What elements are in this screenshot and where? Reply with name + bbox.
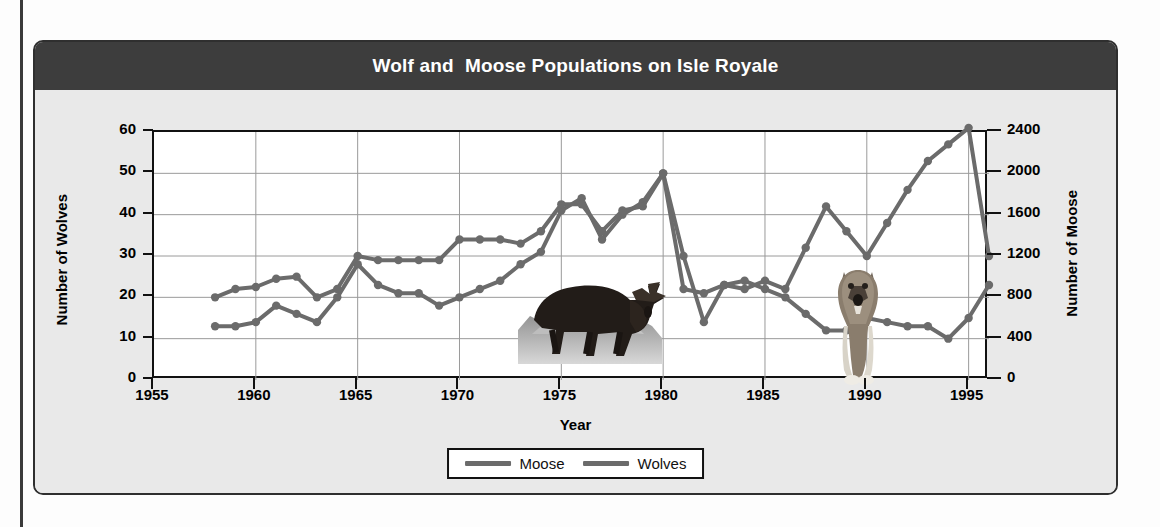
plot-wrapper: Number of Wolves Number of Moose [35,90,1116,495]
moose-photo [514,262,670,367]
x-axis-tick-mark [558,378,560,389]
y-axis-left-tick-mark [143,212,153,214]
y-axis-left-label: Number of Wolves [53,194,70,325]
y-axis-right-tick-mark [987,294,1001,296]
left-margin-rule [20,0,23,527]
x-axis-label: Year [35,416,1116,433]
x-axis-tick-mark [762,378,764,389]
chart-card: Wolf and Moose Populations on Isle Royal… [33,40,1118,495]
y-axis-right-tick-mark [987,253,1001,255]
y-axis-right-tick-800: 800 [1007,285,1065,302]
y-axis-right-tick-400: 400 [1007,327,1065,344]
y-axis-right-tick-mark [987,336,1001,338]
legend-label-wolves: Wolves [638,455,687,472]
y-axis-left-tick-mark [143,129,153,131]
x-axis-tick-mark [864,378,866,389]
legend-label-moose: Moose [520,455,565,472]
y-axis-left-tick-50: 50 [90,161,136,178]
x-axis-tick-mark [151,378,153,389]
y-axis-right-tick-mark [987,212,1001,214]
y-axis-right-tick-mark [987,170,1001,172]
x-axis-tick-mark [660,378,662,389]
y-axis-left-tick-40: 40 [90,203,136,220]
y-axis-left-tick-mark [143,294,153,296]
plot-area [152,130,987,378]
chart-legend: Moose Wolves [447,448,705,479]
y-axis-right-tick-0: 0 [1007,368,1065,385]
y-axis-right-tick-mark [987,129,1001,131]
legend-item-moose[interactable]: Moose [465,455,565,472]
x-axis-tick-mark [355,378,357,389]
x-axis-tick-mark [456,378,458,389]
y-axis-left-tick-mark [143,253,153,255]
y-axis-left-tick-30: 30 [90,244,136,261]
y-axis-left-tick-60: 60 [90,120,136,137]
y-axis-left-tick-0: 0 [90,368,136,385]
x-axis-tick-mark [253,378,255,389]
y-axis-right-tick-2000: 2000 [1007,161,1065,178]
page-title: Wolf and Moose Populations on Isle Royal… [372,55,778,77]
x-axis-tick-mark [966,378,968,389]
wolf-photo [830,266,890,388]
y-axis-right-tick-mark [987,377,1001,379]
legend-swatch-moose [465,461,511,466]
y-axis-right-label: Number of Moose [1063,190,1080,317]
y-axis-left-tick-mark [143,336,153,338]
y-axis-right-tick-1200: 1200 [1007,244,1065,261]
chart-title-bar: Wolf and Moose Populations on Isle Royal… [35,42,1116,90]
y-axis-right-tick-1600: 1600 [1007,203,1065,220]
legend-item-wolves[interactable]: Wolves [583,455,687,472]
chart-body: Number of Wolves Number of Moose [35,90,1116,495]
legend-swatch-wolves [583,461,629,466]
y-axis-left-tick-mark [143,170,153,172]
y-axis-left-tick-20: 20 [90,285,136,302]
y-axis-right-tick-2400: 2400 [1007,120,1065,137]
y-axis-left-tick-10: 10 [90,327,136,344]
